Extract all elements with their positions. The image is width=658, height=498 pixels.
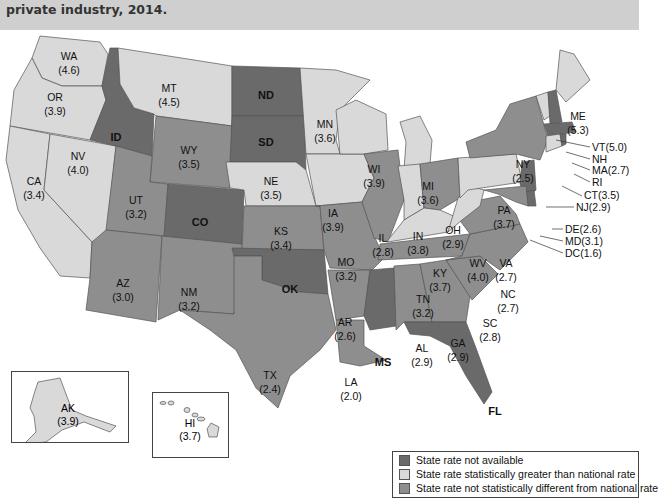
label-OH: OH	[445, 224, 461, 236]
state-ME[interactable]	[556, 50, 590, 102]
label-WI: WI	[368, 163, 381, 175]
value-MO: (3.2)	[335, 270, 357, 282]
label-WY: WY	[181, 144, 198, 156]
state-WI[interactable]	[336, 100, 388, 154]
state-CO[interactable]	[164, 184, 244, 244]
callout-RI: RI	[592, 176, 603, 188]
label-AZ: AZ	[116, 277, 130, 289]
value-KY: (3.7)	[429, 281, 451, 293]
value-KS: (3.4)	[270, 239, 292, 251]
value-AR: (2.6)	[334, 330, 356, 342]
legend: State rate not available State rate stat…	[392, 451, 639, 498]
value-UT: (3.2)	[125, 208, 147, 220]
alaska-inset: AK (3.9)	[11, 371, 129, 443]
label-IL: IL	[379, 232, 388, 244]
value-CA: (3.4)	[23, 189, 45, 201]
value-MN: (3.6)	[314, 132, 336, 144]
label-MS: MS	[375, 356, 392, 368]
label-WV: WV	[470, 257, 487, 269]
label-FL: FL	[488, 405, 502, 417]
value-TX: (2.4)	[259, 383, 281, 395]
value-GA: (2.9)	[447, 351, 469, 363]
label-NC: NC	[500, 288, 516, 300]
hawaii-inset: HI (3.7)	[152, 392, 229, 458]
value-PA: (3.7)	[493, 218, 515, 230]
label-PA: PA	[497, 204, 510, 216]
value-AK: (3.9)	[48, 415, 88, 427]
label-GA: GA	[450, 337, 465, 349]
value-TN: (3.2)	[412, 307, 434, 319]
callout-CT: CT(3.5)	[584, 189, 620, 201]
label-NM: NM	[181, 286, 197, 298]
label-CA: CA	[27, 175, 42, 187]
value-NC: (2.7)	[497, 302, 519, 314]
label-ID: ID	[111, 131, 122, 143]
value-HI: (3.7)	[173, 430, 207, 442]
label-AK: AK	[48, 402, 88, 414]
callout-VT: VT(5.0)	[592, 141, 627, 153]
value-OR: (3.9)	[44, 105, 66, 117]
callout-DC: DC(1.6)	[565, 247, 602, 259]
state-MS[interactable]	[364, 268, 396, 330]
value-NM: (3.2)	[178, 300, 200, 312]
state-HI[interactable]	[207, 423, 219, 437]
value-AZ: (3.0)	[112, 291, 134, 303]
label-IA: IA	[328, 207, 338, 219]
label-WA: WA	[61, 50, 78, 62]
value-LA: (2.0)	[340, 390, 362, 402]
label-VA: VA	[499, 257, 512, 269]
state-CT[interactable]	[546, 134, 562, 152]
label-KS: KS	[274, 225, 288, 237]
figure-caption: private industry, 2014.	[6, 2, 167, 17]
label-ME: ME	[570, 110, 586, 122]
value-AL: (2.9)	[411, 356, 433, 368]
callout-MD: MD(3.1)	[565, 235, 603, 247]
value-NY: (2.5)	[512, 172, 534, 184]
swatch-not-available	[399, 455, 410, 466]
legend-item-not-available: State rate not available	[399, 454, 523, 466]
value-SC: (2.8)	[479, 331, 501, 343]
label-TN: TN	[416, 293, 430, 305]
label-AL: AL	[416, 342, 429, 354]
value-MI: (3.6)	[417, 194, 439, 206]
value-WV: (4.0)	[467, 271, 489, 283]
label-TX: TX	[263, 369, 276, 381]
value-WY: (3.5)	[178, 158, 200, 170]
label-KY: KY	[433, 267, 447, 279]
label-MI: MI	[422, 180, 434, 192]
label-NY: NY	[516, 158, 531, 170]
callout-MA: MA(2.7)	[592, 164, 629, 176]
state-AZ[interactable]	[86, 230, 162, 322]
label-HI: HI	[177, 417, 203, 429]
value-IA: (3.9)	[322, 221, 344, 233]
callout-DE: DE(2.6)	[565, 223, 601, 235]
label-ND: ND	[258, 89, 274, 101]
state-NY[interactable]	[466, 96, 548, 160]
value-ME: (5.3)	[567, 124, 589, 136]
state-MI[interactable]	[400, 116, 432, 170]
label-IN: IN	[413, 230, 424, 242]
label-OK: OK	[282, 283, 299, 295]
swatch-not-different	[399, 483, 410, 494]
value-NE: (3.5)	[260, 189, 282, 201]
label-SD: SD	[258, 136, 273, 148]
label-LA: LA	[345, 376, 358, 388]
label-MN: MN	[317, 118, 333, 130]
legend-item-greater: State rate statistically greater than na…	[399, 468, 635, 480]
label-OR: OR	[47, 91, 63, 103]
value-MT: (4.5)	[158, 96, 180, 108]
label-MT: MT	[161, 82, 177, 94]
label-UT: UT	[129, 194, 144, 206]
label-NV: NV	[71, 150, 86, 162]
value-WA: (4.6)	[58, 64, 80, 76]
value-NV: (4.0)	[67, 164, 89, 176]
label-SC: SC	[483, 317, 498, 329]
label-CO: CO	[192, 216, 209, 228]
label-AR: AR	[338, 316, 353, 328]
state-NM[interactable]	[158, 236, 242, 320]
callout-NJ: NJ(2.9)	[576, 201, 610, 213]
value-IL: (2.8)	[372, 246, 394, 258]
value-WI: (3.9)	[363, 177, 385, 189]
label-NE: NE	[264, 175, 279, 187]
swatch-greater	[399, 469, 410, 480]
